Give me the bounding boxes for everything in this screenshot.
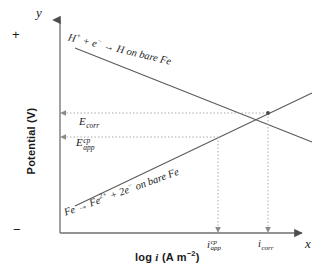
iapp-script-group: cpapp bbox=[210, 238, 221, 253]
iapp-subscript: app bbox=[210, 245, 221, 252]
x-axis-title-prefix: log bbox=[135, 251, 155, 263]
ecorr-axis-tick bbox=[60, 110, 66, 116]
icorr-subscript: corr bbox=[261, 244, 273, 252]
x-axis-title-exponent: −2 bbox=[187, 249, 196, 258]
evans-diagram-figure: y x + − Potential (V) log i (A m−2) Ecor… bbox=[0, 0, 329, 276]
diagram-canvas bbox=[0, 0, 329, 276]
eapp-script-group: cpapp bbox=[83, 136, 94, 152]
positive-polarity-sign: + bbox=[12, 27, 20, 42]
y-axis-title: Potential (V) bbox=[25, 91, 37, 191]
icorr-axis-tick bbox=[265, 227, 271, 233]
ecorr-base-symbol: E bbox=[79, 115, 86, 127]
corrosion-point-marker bbox=[266, 111, 270, 115]
y-axis-letter: y bbox=[36, 5, 42, 21]
x-axis-title-unit-close: ) bbox=[196, 251, 200, 263]
eapp-subscript: app bbox=[83, 144, 94, 152]
x-axis-title-unit-open: (A m bbox=[159, 251, 187, 263]
iapp-axis-tick bbox=[215, 227, 221, 233]
eapp-cp-label: Ecpapp bbox=[76, 136, 94, 152]
x-axis-title: log i (A m−2) bbox=[135, 249, 200, 263]
ecorr-subscript: corr bbox=[86, 121, 99, 130]
eapp-base-symbol: E bbox=[76, 136, 83, 148]
ecorr-label: Ecorr bbox=[79, 115, 99, 127]
icorr-tick-label: icorr bbox=[258, 238, 273, 249]
eapp-axis-tick bbox=[60, 134, 66, 140]
x-axis-letter: x bbox=[305, 236, 311, 252]
cathodic-branch-line bbox=[75, 48, 312, 142]
negative-polarity-sign: − bbox=[13, 222, 21, 237]
iapp-cp-tick-label: icpapp bbox=[207, 238, 221, 253]
